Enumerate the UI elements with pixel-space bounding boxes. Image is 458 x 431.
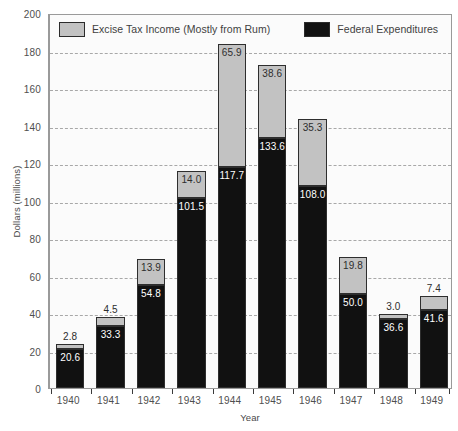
bar-group[interactable]: 54.813.9 [137,259,165,388]
y-axis-tick-label: 120 [1,159,41,170]
legend-swatch-excise-icon [59,22,85,37]
bar-segment-excise-tax-income[interactable]: 65.9 [218,44,246,168]
bar-value-label-federal: 54.8 [138,288,164,299]
stacked-bar-chart: Dollars (millions) 020406080100120140160… [0,0,458,431]
bar-segment-excise-tax-income[interactable]: 3.0 [379,314,407,320]
bar-value-label-federal: 20.6 [57,352,83,363]
x-axis-tick-mark [374,389,375,394]
x-axis-tick-labels: 1940194119421943194419451946194719481949 [48,395,452,411]
plot-area: Excise Tax Income (Mostly from Rum) Fede… [48,14,452,389]
bar-segment-federal-expenditures[interactable]: 117.7 [218,167,246,388]
bar-value-label-federal: 33.3 [97,329,123,340]
bar-segment-excise-tax-income[interactable]: 4.5 [96,317,124,325]
y-axis-tick-label: 80 [1,234,41,245]
x-axis-tick-label: 1941 [97,395,120,406]
bar-segment-excise-tax-income[interactable]: 14.0 [177,171,205,197]
bar-value-label-federal: 41.6 [421,313,447,324]
bar-group[interactable]: 36.63.0 [379,314,407,388]
bar-segment-excise-tax-income[interactable]: 13.9 [137,259,165,285]
bar-segment-federal-expenditures[interactable]: 101.5 [177,198,205,388]
bar-value-label-federal: 50.0 [340,297,366,308]
bar-value-label-federal: 101.5 [178,201,204,212]
y-axis-tick-label: 20 [1,346,41,357]
bar-segment-federal-expenditures[interactable]: 54.8 [137,285,165,388]
bar-value-label-excise: 7.4 [421,283,447,294]
bar-value-label-excise: 35.3 [299,122,325,133]
bar-segment-federal-expenditures[interactable]: 36.6 [379,319,407,388]
legend-item-federal-expenditures: Federal Expenditures [304,22,438,37]
y-axis-tick-label: 40 [1,309,41,320]
bar-value-label-excise: 3.0 [380,301,406,312]
x-axis-tick-label: 1942 [137,395,160,406]
x-axis-tick-label: 1947 [339,395,362,406]
bar-segment-excise-tax-income[interactable]: 38.6 [258,65,286,137]
legend-label-excise: Excise Tax Income (Mostly from Rum) [92,23,270,35]
bar-value-label-federal: 133.6 [259,141,285,152]
x-axis-tick-mark [449,389,450,394]
bar-group[interactable]: 20.62.8 [56,344,84,388]
bar-value-label-federal: 117.7 [219,170,245,181]
x-axis-tick-mark [334,389,335,394]
bar-segment-excise-tax-income[interactable]: 19.8 [339,257,367,294]
y-axis-tick-label: 140 [1,121,41,132]
bar-group[interactable]: 108.035.3 [298,119,326,388]
bar-segment-excise-tax-income[interactable]: 7.4 [420,296,448,310]
y-axis-tick-label: 160 [1,84,41,95]
y-axis-tick-label: 60 [1,271,41,282]
bar-value-label-excise: 65.9 [219,47,245,58]
x-axis-tick-label: 1944 [218,395,241,406]
bar-group[interactable]: 101.514.0 [177,171,205,388]
y-axis-tick-labels: 020406080100120140160180200 [0,0,45,431]
bar-segment-federal-expenditures[interactable]: 41.6 [420,310,448,388]
bar-group[interactable]: 133.638.6 [258,65,286,388]
x-axis-tick-label: 1948 [380,395,403,406]
bar-value-label-excise: 38.6 [259,68,285,79]
bar-value-label-federal: 108.0 [299,189,325,200]
bar-series-container: 20.62.833.34.554.813.9101.514.0117.765.9… [50,15,451,388]
bar-segment-federal-expenditures[interactable]: 133.6 [258,138,286,389]
x-axis-tick-label: 1949 [420,395,443,406]
bar-value-label-excise: 19.8 [340,260,366,271]
x-axis-tick-mark [132,389,133,394]
x-axis-tick-label: 1946 [299,395,322,406]
bar-value-label-excise: 2.8 [57,331,83,342]
y-axis-tick-label: 0 [1,384,41,395]
y-axis-tick-label: 180 [1,46,41,57]
bar-group[interactable]: 50.019.8 [339,257,367,388]
x-axis-tick-mark [253,389,254,394]
x-axis-tick-label: 1943 [178,395,201,406]
x-axis-tick-mark [51,389,52,394]
y-axis-tick-label: 200 [1,9,41,20]
bar-segment-federal-expenditures[interactable]: 33.3 [96,326,124,388]
bar-value-label-excise: 13.9 [138,262,164,273]
x-axis-tick-label: 1945 [259,395,282,406]
legend-item-excise-tax-income: Excise Tax Income (Mostly from Rum) [59,22,270,37]
bar-group[interactable]: 33.34.5 [96,317,124,388]
bar-segment-excise-tax-income[interactable]: 2.8 [56,344,84,349]
x-axis-tick-mark [213,389,214,394]
bar-segment-excise-tax-income[interactable]: 35.3 [298,119,326,185]
x-axis-tick-mark [91,389,92,394]
bar-value-label-excise: 4.5 [97,304,123,315]
bar-value-label-federal: 36.6 [380,322,406,333]
legend-swatch-federal-icon [304,22,330,37]
x-axis-tick-label: 1940 [57,395,80,406]
bar-group[interactable]: 117.765.9 [218,44,246,388]
x-axis-tick-mark [293,389,294,394]
bar-segment-federal-expenditures[interactable]: 108.0 [298,186,326,389]
x-axis-title: Year [48,412,452,423]
x-axis-tick-mark [415,389,416,394]
bar-segment-federal-expenditures[interactable]: 50.0 [339,294,367,388]
bar-group[interactable]: 41.67.4 [420,296,448,388]
legend-label-federal: Federal Expenditures [337,23,438,35]
chart-legend: Excise Tax Income (Mostly from Rum) Fede… [59,18,445,40]
x-axis-tick-mark [172,389,173,394]
bar-value-label-excise: 14.0 [178,174,204,185]
bar-segment-federal-expenditures[interactable]: 20.6 [56,349,84,388]
y-axis-tick-label: 100 [1,196,41,207]
